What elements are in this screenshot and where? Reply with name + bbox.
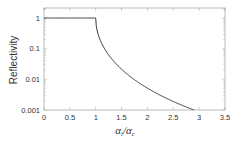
x-tick-label: 3	[197, 113, 201, 122]
x-tick-label: 0	[42, 113, 46, 122]
y-axis-title: Reflectivity	[8, 36, 19, 84]
y-tick-label: 0.1	[30, 44, 40, 53]
x-axis-title: αi/αc	[115, 124, 136, 138]
y-tick-label: 0.001	[21, 106, 40, 115]
x-tick-labels: 00.511.522.533.5	[42, 113, 230, 122]
y-tick-labels: 10.10.010.001	[21, 14, 40, 115]
reflectivity-curve	[44, 18, 194, 110]
x-tick-label: 0.5	[65, 113, 75, 122]
x-axis-title-sub2: c	[132, 130, 136, 138]
y-tick-label: 1	[36, 14, 40, 23]
x-tick-label: 2.5	[168, 113, 178, 122]
axis-ticks	[44, 8, 225, 110]
y-tick-label: 0.01	[25, 75, 40, 84]
x-tick-label: 3.5	[220, 113, 230, 122]
plot-border	[44, 8, 225, 110]
x-tick-label: 2	[145, 113, 149, 122]
plot-frame	[44, 8, 225, 110]
x-tick-label: 1.5	[116, 113, 126, 122]
x-tick-label: 1	[94, 113, 98, 122]
reflectivity-chart: 00.511.522.533.5 10.10.010.001 Reflectiv…	[0, 0, 243, 143]
